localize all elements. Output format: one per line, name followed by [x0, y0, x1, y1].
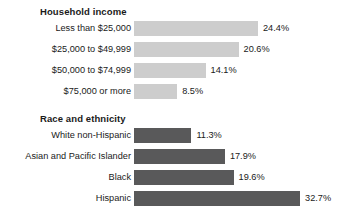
bar-row: Less than $25,00024.4% [0, 20, 354, 41]
bar-value-label: 32.7% [305, 191, 331, 206]
bar-category-label: Hispanic [0, 190, 131, 206]
bar [134, 84, 177, 99]
bar [134, 149, 225, 164]
bar [134, 21, 258, 36]
bar-value-label: 19.6% [239, 170, 265, 185]
bar [134, 170, 234, 185]
bar-category-label: $25,000 to $49,999 [0, 41, 131, 57]
bar-row: White non-Hispanic11.3% [0, 127, 354, 148]
bar-category-label: $50,000 to $74,999 [0, 62, 131, 78]
group-title-race-and-ethnicity: Race and ethnicity [40, 113, 126, 124]
bar-row: Asian and Pacific Islander17.9% [0, 148, 354, 169]
bar [134, 42, 239, 57]
bar-category-label: White non-Hispanic [0, 127, 131, 143]
bar-rows-household-income: Less than $25,00024.4%$25,000 to $49,999… [0, 20, 354, 104]
bar-rows-race-and-ethnicity: White non-Hispanic11.3%Asian and Pacific… [0, 127, 354, 211]
bar-category-label: Less than $25,000 [0, 20, 131, 36]
bar-track: 19.6% [134, 170, 354, 185]
bar-category-label: Black [0, 169, 131, 185]
bar [134, 63, 206, 78]
bar-track: 11.3% [134, 128, 354, 143]
bar-track: 17.9% [134, 149, 354, 164]
bar-track: 14.1% [134, 63, 354, 78]
bar-value-label: 14.1% [211, 63, 237, 78]
bar-row: Black19.6% [0, 169, 354, 190]
bar-track: 24.4% [134, 21, 354, 36]
bar-value-label: 20.6% [244, 42, 270, 57]
bar-value-label: 17.9% [230, 149, 256, 164]
bar-row: $25,000 to $49,99920.6% [0, 41, 354, 62]
bar-row: $75,000 or more8.5% [0, 83, 354, 104]
bar-category-label: $75,000 or more [0, 83, 131, 99]
bar-track: 20.6% [134, 42, 354, 57]
bar [134, 128, 191, 143]
bar-value-label: 24.4% [263, 21, 289, 36]
bar-row: Hispanic32.7% [0, 190, 354, 211]
bar-category-label: Asian and Pacific Islander [0, 148, 131, 164]
bar-value-label: 8.5% [182, 84, 203, 99]
bar-track: 32.7% [134, 191, 354, 206]
bar-track: 8.5% [134, 84, 354, 99]
bar [134, 191, 300, 206]
bar-row: $50,000 to $74,99914.1% [0, 62, 354, 83]
group-title-household-income: Household income [40, 6, 127, 17]
grouped-bar-chart: Household income Less than $25,00024.4%$… [0, 0, 354, 213]
bar-value-label: 11.3% [196, 128, 221, 143]
